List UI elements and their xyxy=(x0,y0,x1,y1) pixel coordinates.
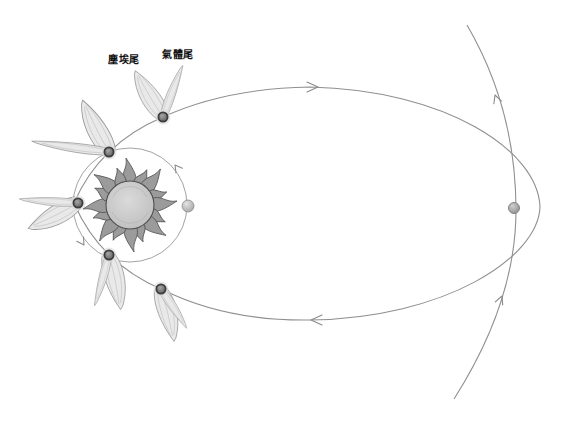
planet xyxy=(182,200,194,212)
comet-nucleus xyxy=(158,112,167,121)
comet-position-2 xyxy=(31,96,117,160)
gas-tail xyxy=(19,195,78,207)
comet-nucleus xyxy=(156,284,165,293)
sun xyxy=(83,158,177,252)
comet-position-5 xyxy=(152,282,190,344)
planet-orbit-direction-arrow-lower xyxy=(77,237,84,245)
comet-position-3 xyxy=(19,195,85,238)
comet-nucleus xyxy=(104,147,113,156)
planet-orbit-direction-arrow-upper xyxy=(175,165,182,173)
comet-position-1 xyxy=(127,64,187,125)
sun-core xyxy=(106,181,154,229)
comet-position-4 xyxy=(91,248,131,312)
comet-nucleus xyxy=(73,198,82,207)
diagram-canvas xyxy=(0,0,565,437)
outer-comet-trajectory xyxy=(454,25,520,399)
distant-comet xyxy=(509,203,520,214)
comet-nucleus xyxy=(104,250,113,259)
comet-orbit-diagram: 塵埃尾 氣體尾 xyxy=(0,0,565,437)
gas-tail-label: 氣體尾 xyxy=(162,46,194,61)
dust-tail-label: 塵埃尾 xyxy=(108,51,140,66)
